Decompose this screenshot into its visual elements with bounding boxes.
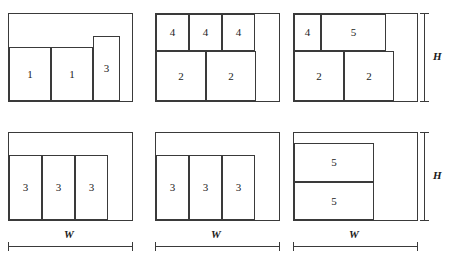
height-dimension-label: H (433, 51, 442, 62)
packed-item: 4 (189, 14, 222, 51)
height-dimension-label: H (433, 170, 442, 181)
item-label: 3 (56, 182, 62, 193)
packed-item: 3 (9, 155, 42, 220)
item-label: 4 (236, 27, 242, 38)
item-label: 4 (170, 27, 176, 38)
packed-item: 3 (75, 155, 108, 220)
bracket-cap-right (132, 242, 133, 251)
packed-item: 5 (321, 14, 386, 51)
item-label: 1 (69, 69, 75, 80)
bracket-cap-right (417, 242, 418, 251)
item-label: 3 (89, 182, 95, 193)
item-label: 2 (366, 71, 372, 82)
item-label: 2 (316, 71, 322, 82)
width-dimension-bracket (155, 242, 280, 251)
bracket-cap-bottom (420, 220, 429, 221)
bracket-cap-top (420, 132, 429, 133)
width-dimension-label: W (349, 229, 359, 240)
packed-item: 3 (189, 155, 222, 220)
bracket-line (424, 132, 425, 221)
item-label: 5 (331, 157, 337, 168)
packed-item: 3 (42, 155, 75, 220)
item-label: 3 (236, 182, 242, 193)
packed-item: 1 (51, 47, 93, 101)
item-label: 2 (228, 71, 234, 82)
bracket-line (155, 246, 280, 247)
packed-item: 2 (294, 51, 344, 101)
bracket-cap-top (420, 13, 429, 14)
item-label: 3 (170, 182, 176, 193)
height-dimension-bracket (420, 132, 429, 221)
height-dimension-bracket (420, 13, 429, 102)
item-label: 5 (331, 196, 337, 207)
item-label: 3 (203, 182, 209, 193)
item-label: 3 (104, 63, 110, 74)
packed-item: 3 (93, 36, 120, 101)
item-label: 4 (203, 27, 209, 38)
item-label: 4 (305, 27, 311, 38)
bracket-line (424, 13, 425, 102)
bracket-cap-left (293, 242, 294, 251)
item-label: 1 (27, 69, 33, 80)
packed-item: 4 (294, 14, 321, 51)
packed-item: 3 (156, 155, 189, 220)
diagram-canvas: 11344422452233333355HHWWW (0, 0, 449, 264)
width-dimension-bracket (293, 242, 418, 251)
packed-item: 1 (9, 47, 51, 101)
bracket-cap-left (155, 242, 156, 251)
width-dimension-bracket (8, 242, 133, 251)
bracket-cap-left (8, 242, 9, 251)
bracket-line (293, 246, 418, 247)
packed-item: 4 (222, 14, 255, 51)
packed-item: 5 (294, 182, 374, 220)
packed-item: 4 (156, 14, 189, 51)
packed-item: 2 (156, 51, 206, 101)
bracket-line (8, 246, 133, 247)
packed-item: 2 (206, 51, 256, 101)
width-dimension-label: W (64, 229, 74, 240)
packed-item: 3 (222, 155, 255, 220)
bracket-cap-right (279, 242, 280, 251)
packed-item: 5 (294, 143, 374, 182)
packed-item: 2 (344, 51, 394, 101)
bracket-cap-bottom (420, 101, 429, 102)
item-label: 3 (23, 182, 29, 193)
width-dimension-label: W (211, 229, 221, 240)
item-label: 5 (351, 27, 357, 38)
item-label: 2 (178, 71, 184, 82)
